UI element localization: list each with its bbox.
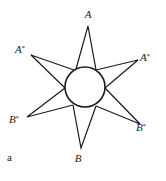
spike-a-top: [76, 26, 96, 70]
label-bstar-right: B*: [136, 121, 147, 133]
label-bstar-left: B*: [9, 113, 20, 125]
label-astar-left: A*: [14, 43, 26, 55]
label-b-bottom: B: [75, 152, 82, 164]
label-astar-right: A*: [139, 51, 151, 63]
center-circle: [65, 67, 105, 107]
label-a-top: A: [84, 8, 92, 20]
spike-b-bottom: [73, 105, 96, 148]
panel-label: a: [7, 151, 12, 163]
star-superscript: *: [16, 114, 20, 122]
star-diagram: AA*A*B*B*B a: [0, 0, 166, 181]
star-superscript: *: [143, 122, 147, 130]
star-superscript: *: [147, 52, 151, 60]
star-superscript: *: [22, 44, 26, 52]
